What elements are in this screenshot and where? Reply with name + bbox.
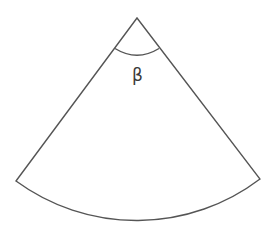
sector-svg: β bbox=[0, 0, 275, 228]
sector-diagram: β bbox=[0, 0, 275, 228]
angle-label-beta: β bbox=[132, 65, 143, 85]
sector-outline bbox=[16, 18, 260, 221]
